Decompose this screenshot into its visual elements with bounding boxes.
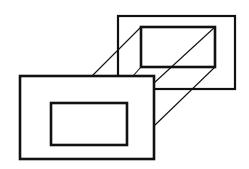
frames-diagram: [0, 0, 249, 169]
front-frame-outer: [20, 76, 154, 159]
connector-line-1: [92, 27, 141, 76]
connector-line-4: [154, 67, 215, 126]
connector-line-2: [133, 67, 141, 76]
connector-line-3: [154, 27, 215, 83]
